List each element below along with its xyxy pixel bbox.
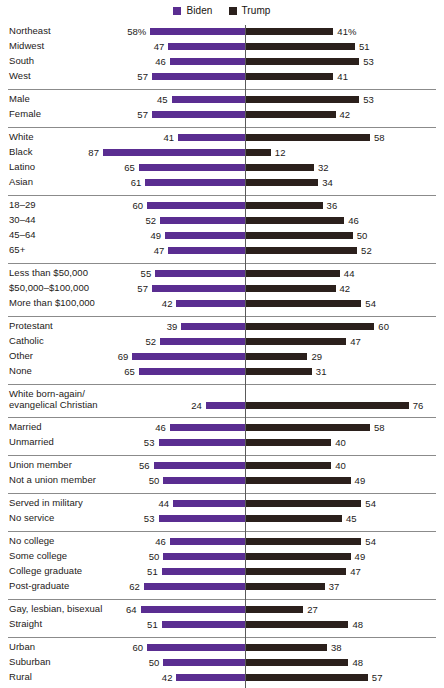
value-label-trump: 34 bbox=[322, 178, 333, 188]
value-label-biden: 61 bbox=[131, 178, 142, 188]
value-label-trump: 58 bbox=[374, 423, 385, 433]
chart-row: Unmarried5340 bbox=[0, 436, 444, 451]
row-category-label: Urban bbox=[9, 641, 35, 652]
row-category-label: Gay, lesbian, bisexual bbox=[9, 603, 102, 614]
bar-trump bbox=[245, 323, 374, 330]
bar-biden bbox=[176, 300, 245, 307]
bar-trump bbox=[245, 300, 361, 307]
value-label-biden: 47 bbox=[154, 246, 165, 256]
bar-biden bbox=[176, 674, 245, 681]
row-category-label: Asian bbox=[9, 176, 33, 187]
value-label-trump: 47 bbox=[350, 337, 361, 347]
chart-row: None6531 bbox=[0, 365, 444, 380]
row-category-label: Catholic bbox=[9, 335, 44, 346]
value-label-biden: 51 bbox=[147, 620, 158, 630]
value-label-trump: 57 bbox=[372, 673, 383, 683]
chart-row: Less than $50,0005544 bbox=[0, 267, 444, 282]
bar-biden bbox=[162, 568, 245, 575]
chart-row: Midwest4751 bbox=[0, 40, 444, 55]
bar-trump bbox=[245, 202, 323, 209]
bar-trump bbox=[245, 285, 336, 292]
value-label-trump: 53 bbox=[363, 57, 374, 67]
value-label-biden: 64 bbox=[126, 605, 137, 615]
chart-row: Served in military4454 bbox=[0, 497, 444, 512]
bar-trump bbox=[245, 353, 307, 360]
bar-trump bbox=[245, 232, 353, 239]
bar-biden bbox=[170, 58, 245, 65]
chart-row: Other6929 bbox=[0, 350, 444, 365]
value-label-biden: 57 bbox=[137, 72, 148, 82]
bar-trump bbox=[245, 368, 312, 375]
value-label-biden: 51 bbox=[147, 567, 158, 577]
value-label-trump: 48 bbox=[352, 658, 363, 668]
value-label-trump: 12 bbox=[275, 148, 286, 158]
chart-row: Suburban5048 bbox=[0, 656, 444, 671]
chart-row: 30–445246 bbox=[0, 214, 444, 229]
value-label-biden: 47 bbox=[154, 42, 165, 52]
value-label-biden: 60 bbox=[132, 201, 143, 211]
value-label-trump: 49 bbox=[355, 476, 366, 486]
value-label-trump: 51 bbox=[359, 42, 370, 52]
value-label-biden: 50 bbox=[149, 658, 160, 668]
value-label-biden: 46 bbox=[155, 537, 166, 547]
row-category-label: Married bbox=[9, 421, 42, 432]
row-category-label: South bbox=[9, 55, 34, 66]
chart-row: White4158 bbox=[0, 131, 444, 146]
chart-row: White born-again/ evangelical Christian2… bbox=[0, 388, 444, 413]
value-label-biden: 60 bbox=[132, 643, 143, 653]
bar-biden bbox=[159, 439, 245, 446]
value-label-trump: 54 bbox=[365, 499, 376, 509]
row-category-label: None bbox=[9, 365, 32, 376]
bar-trump bbox=[245, 621, 348, 628]
row-category-label: Union member bbox=[9, 459, 72, 470]
legend-label-biden: Biden bbox=[186, 6, 212, 16]
value-label-biden: 52 bbox=[145, 337, 156, 347]
group-separator bbox=[8, 493, 436, 494]
value-label-trump: 60 bbox=[378, 322, 389, 332]
legend-entry-trump: Trump bbox=[229, 6, 271, 16]
value-label-biden: 49 bbox=[150, 231, 161, 241]
square-swatch-icon-biden bbox=[173, 7, 181, 15]
value-label-trump: 53 bbox=[363, 95, 374, 105]
bar-trump bbox=[245, 134, 370, 141]
bar-biden bbox=[172, 96, 245, 103]
value-label-biden: 24 bbox=[191, 401, 202, 411]
bar-biden bbox=[152, 111, 245, 118]
group-separator bbox=[8, 263, 436, 264]
chart-row: No college4654 bbox=[0, 535, 444, 550]
row-category-label: White born-again/ evangelical Christian bbox=[9, 388, 98, 410]
bar-trump bbox=[245, 179, 318, 186]
row-category-label: Female bbox=[9, 108, 41, 119]
row-category-label: Black bbox=[9, 146, 32, 157]
group-separator bbox=[8, 531, 436, 532]
value-label-trump: 40 bbox=[335, 461, 346, 471]
value-label-biden: 65 bbox=[124, 163, 135, 173]
value-label-trump: 42 bbox=[340, 284, 351, 294]
bar-biden bbox=[141, 606, 245, 613]
value-label-biden: 42 bbox=[162, 673, 173, 683]
row-category-label: West bbox=[9, 70, 31, 81]
chart-row: Not a union member5049 bbox=[0, 474, 444, 489]
row-category-label: Protestant bbox=[9, 320, 53, 331]
bar-trump bbox=[245, 500, 361, 507]
value-label-biden: 57 bbox=[137, 284, 148, 294]
bar-biden bbox=[154, 462, 245, 469]
value-label-biden: 50 bbox=[149, 476, 160, 486]
bar-biden bbox=[165, 232, 245, 239]
group-separator bbox=[8, 417, 436, 418]
row-category-label: Other bbox=[9, 350, 33, 361]
bar-trump bbox=[245, 217, 344, 224]
value-label-biden: 46 bbox=[155, 57, 166, 67]
value-label-biden: 53 bbox=[144, 514, 155, 524]
value-label-biden: 44 bbox=[159, 499, 170, 509]
value-label-biden: 45 bbox=[157, 95, 168, 105]
bar-trump bbox=[245, 424, 370, 431]
bar-biden bbox=[163, 477, 245, 484]
bar-trump bbox=[245, 73, 333, 80]
value-label-biden: 42 bbox=[162, 299, 173, 309]
chart-row: Male4553 bbox=[0, 93, 444, 108]
chart-row: Black8712 bbox=[0, 146, 444, 161]
bar-trump bbox=[245, 477, 351, 484]
chart-row: Female5742 bbox=[0, 108, 444, 123]
chart-row: Latino6532 bbox=[0, 161, 444, 176]
